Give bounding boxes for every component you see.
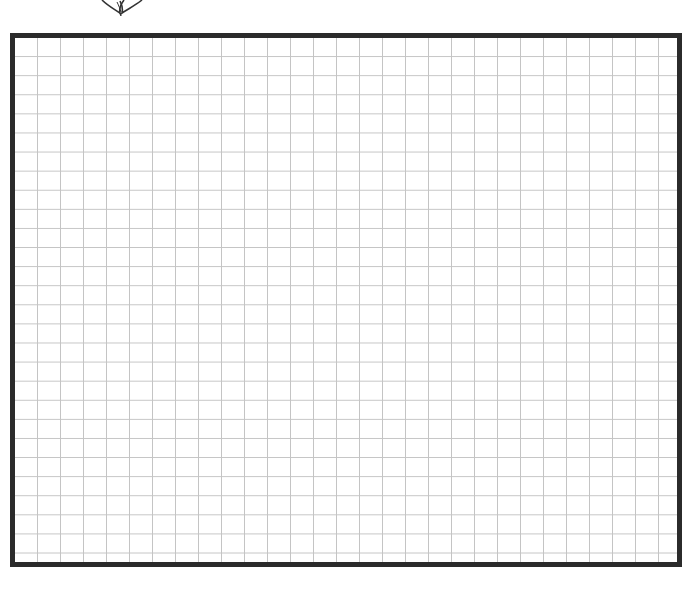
leaf-ornament-icon — [100, 0, 144, 16]
graph-paper-grid — [10, 33, 682, 567]
